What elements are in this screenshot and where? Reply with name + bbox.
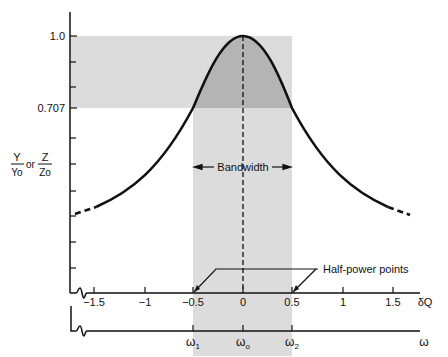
svg-text:Zo: Zo [39, 167, 51, 178]
svg-text:1.5: 1.5 [385, 296, 400, 308]
svg-text:Y: Y [13, 151, 21, 163]
svg-text:Z: Z [42, 151, 49, 163]
curve-tail-right [388, 207, 410, 215]
svg-text:−0.5: −0.5 [182, 296, 204, 308]
x-axis-label-omega: ω [419, 335, 428, 349]
svg-text:or: or [26, 159, 36, 170]
y-label-1: 1.0 [50, 30, 65, 42]
svg-text:1: 1 [340, 296, 346, 308]
resonance-diagram: Bandwidth Half-power points 1.0 0.707 Y … [0, 0, 448, 357]
half-power-label: Half-power points [323, 263, 409, 275]
svg-text:−1.5: −1.5 [83, 296, 105, 308]
y-axis-label: Y Yo or Z Zo [11, 151, 52, 178]
svg-text:ω2: ω2 [285, 335, 299, 351]
svg-text:0.5: 0.5 [284, 296, 299, 308]
svg-text:Yo: Yo [11, 167, 23, 178]
x-tick-labels: −1.5 −1 −0.5 0 0.5 1 1.5 [83, 296, 401, 308]
x-axis-label-dq: δQ [418, 296, 433, 308]
curve-tail-left [75, 207, 96, 214]
bandwidth-label: Bandwidth [217, 161, 268, 173]
svg-text:−1: −1 [139, 296, 152, 308]
y-label-0707: 0.707 [37, 102, 65, 114]
svg-text:0: 0 [240, 296, 246, 308]
